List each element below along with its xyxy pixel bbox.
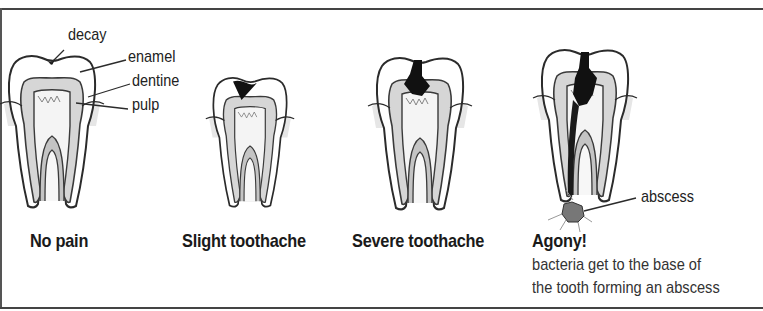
stage-label-no-pain: No pain xyxy=(30,230,88,252)
tooth-no-pain xyxy=(0,56,104,207)
tooth-slight-toothache xyxy=(206,78,294,207)
label-enamel: enamel xyxy=(128,47,175,67)
label-abscess: abscess xyxy=(641,187,694,207)
label-pulp: pulp xyxy=(132,95,159,115)
stage-label-slight-toothache: Slight toothache xyxy=(182,230,306,252)
label-decay: decay xyxy=(68,25,107,45)
agony-description-line-1: bacteria get to the base of xyxy=(532,254,701,276)
label-dentine: dentine xyxy=(132,71,179,91)
tooth-agony xyxy=(533,50,637,201)
stage-label-severe-toothache: Severe toothache xyxy=(352,230,484,252)
tooth-severe-toothache xyxy=(368,58,472,209)
stage-label-agony: Agony! xyxy=(532,230,587,252)
agony-description-line-2: the tooth forming an abscess xyxy=(532,277,720,299)
